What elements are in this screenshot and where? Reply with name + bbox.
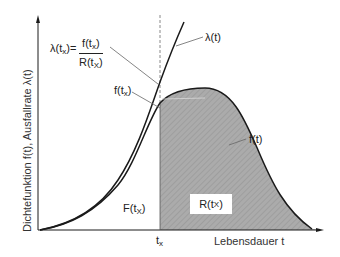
reliability-diagram (0, 0, 340, 257)
reliability-area-shaded (160, 88, 320, 230)
x-axis-label: Lebensdauer t (214, 236, 284, 247)
lambda-leader-line (176, 37, 203, 46)
cdf-area-label: F(tX) (123, 203, 145, 216)
lambda-curve-label: λ(t) (205, 32, 221, 43)
density-curve-label: f(t) (249, 134, 262, 145)
y-axis-label: Dichtefunktion f(t), Ausfallrate λ(t) (21, 69, 33, 232)
f-tx-label: f(tx) (114, 85, 131, 98)
lambda-tx-leader-line (110, 47, 158, 84)
lambda-tx-label: λ(tx)= (50, 43, 76, 56)
fraction-denominator: R(tX) (79, 56, 103, 70)
reliability-area-label: R(tX) (190, 194, 232, 214)
y-axis-arrow-icon (36, 15, 40, 23)
tx-tick-label: tx (156, 235, 163, 248)
x-axis-arrow-icon (316, 228, 324, 232)
fraction-numerator: f(tx) (79, 37, 103, 51)
fraction-bar (79, 53, 103, 54)
lambda-tx-fraction: f(tx) R(tX) (79, 37, 103, 70)
